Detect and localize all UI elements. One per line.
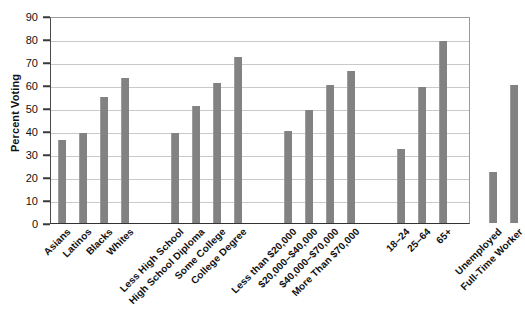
- gridline: [51, 156, 469, 157]
- bar: [489, 172, 497, 223]
- plot-area: [50, 17, 470, 224]
- bar: [213, 83, 221, 223]
- y-axis-tick-label: 90: [26, 11, 38, 23]
- gridline: [51, 133, 469, 134]
- bar: [284, 131, 292, 223]
- gridline: [51, 87, 469, 88]
- bar: [234, 57, 242, 223]
- bar: [326, 85, 334, 223]
- y-axis-tick-mark: [43, 85, 50, 87]
- bar: [121, 78, 129, 223]
- bar: [171, 133, 179, 223]
- y-axis-tick-label: 50: [26, 103, 38, 115]
- bar: [347, 71, 355, 223]
- y-axis-tick-label: 40: [26, 126, 38, 138]
- bar: [58, 140, 66, 223]
- bar: [192, 106, 200, 223]
- gridline: [51, 179, 469, 180]
- y-axis-tick-mark: [43, 62, 50, 64]
- bar: [439, 41, 447, 223]
- bar: [397, 149, 405, 223]
- gridline: [51, 41, 469, 42]
- bar: [79, 133, 87, 223]
- gridline: [51, 110, 469, 111]
- x-axis-labels: AsiansLatinosBlacksWhitesLess High Schoo…: [0, 226, 488, 335]
- y-axis-tick-label: 20: [26, 172, 38, 184]
- y-axis-tick-mark: [43, 131, 50, 133]
- y-axis-tick-mark: [43, 39, 50, 41]
- bar: [418, 87, 426, 223]
- y-axis-tick-label: 80: [26, 34, 38, 46]
- bar: [510, 85, 518, 223]
- y-axis-tick-mark: [43, 16, 50, 18]
- bar: [100, 97, 108, 224]
- y-axis-tick-label: 10: [26, 195, 38, 207]
- y-axis-tick-mark: [43, 200, 50, 202]
- gridline: [51, 64, 469, 65]
- y-axis-tick-label: 60: [26, 80, 38, 92]
- y-axis-tick-mark: [43, 154, 50, 156]
- bar: [305, 110, 313, 223]
- y-axis-tick-label: 70: [26, 57, 38, 69]
- y-axis-tick-mark: [43, 223, 50, 225]
- y-axis-tick-mark: [43, 177, 50, 179]
- gridline: [51, 202, 469, 203]
- y-axis-tick-mark: [43, 108, 50, 110]
- y-axis-tick-label: 30: [26, 149, 38, 161]
- x-axis-label: 65+: [434, 226, 454, 246]
